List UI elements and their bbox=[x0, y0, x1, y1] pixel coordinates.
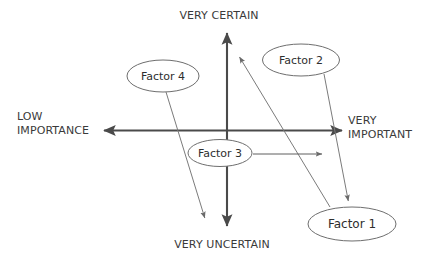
factor-1-label: Factor 1 bbox=[328, 217, 376, 231]
axis-label-very-important-line1: VERY bbox=[348, 114, 377, 127]
factor-node-factor-1[interactable]: Factor 1 bbox=[308, 207, 396, 241]
factor-node-factor-4[interactable]: Factor 4 bbox=[127, 60, 199, 92]
axis-label-very-important-line2: IMPORTANT bbox=[348, 128, 412, 141]
factor-node-factor-3[interactable]: Factor 3 bbox=[188, 140, 252, 167]
factor-2-label: Factor 2 bbox=[279, 54, 323, 67]
arrow-factor-2-to-factor-1 bbox=[324, 74, 348, 201]
axis-label-very-certain: VERY CERTAIN bbox=[179, 9, 258, 22]
factor-4-label: Factor 4 bbox=[141, 70, 185, 83]
axis-label-low-importance-line1: LOW bbox=[17, 110, 43, 123]
diagram-canvas: VERY CERTAIN VERY UNCERTAIN LOW IMPORTAN… bbox=[0, 0, 432, 261]
arrow-factor-1-to-upper-left bbox=[240, 57, 331, 207]
factor-quadrant-diagram: VERY CERTAIN VERY UNCERTAIN LOW IMPORTAN… bbox=[0, 0, 432, 261]
factor-node-factor-2[interactable]: Factor 2 bbox=[263, 44, 340, 76]
axis-label-low-importance-line2: IMPORTANCE bbox=[17, 124, 89, 137]
axis-label-very-uncertain: VERY UNCERTAIN bbox=[174, 238, 270, 251]
factor-3-label: Factor 3 bbox=[198, 147, 242, 160]
